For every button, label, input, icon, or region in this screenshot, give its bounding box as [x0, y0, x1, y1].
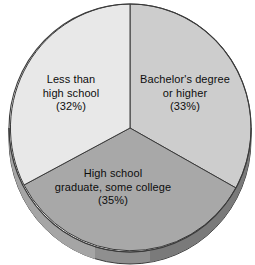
- pie-top-face: [9, 4, 251, 252]
- pie-chart-graphic: [0, 0, 255, 265]
- pie-chart-figure: Bachelor's degree or higher (33%) Less t…: [0, 0, 255, 265]
